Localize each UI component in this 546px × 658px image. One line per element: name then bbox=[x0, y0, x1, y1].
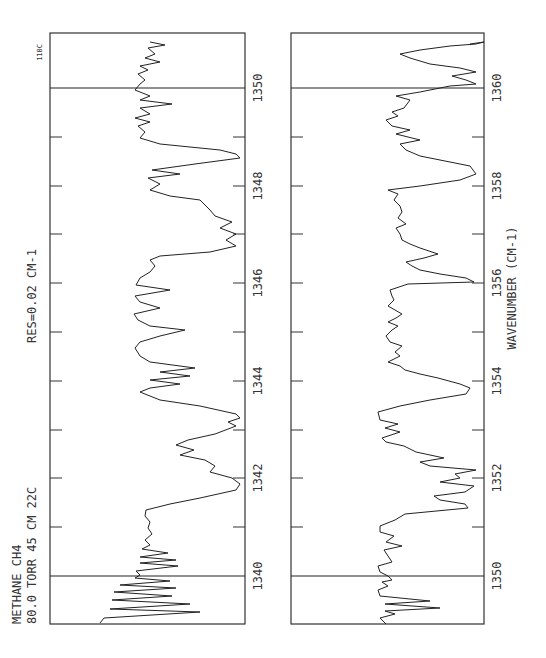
spectrum-figure: 110C METHANE CH4 80.0 TORR 45 CM 22C RES… bbox=[0, 0, 546, 658]
figure-id-label: 110C bbox=[36, 44, 44, 61]
svg-text:1344: 1344 bbox=[251, 367, 265, 396]
lower-panel: 1350 1352 1354 1356 1358 1360 WAVENUMBER… bbox=[291, 33, 519, 624]
upper-spectrum-trace bbox=[100, 42, 240, 623]
header-line2: 80.0 TORR 45 CM 22C bbox=[25, 487, 39, 624]
svg-text:1346: 1346 bbox=[251, 269, 265, 298]
svg-text:1348: 1348 bbox=[251, 172, 265, 201]
lower-spectrum-trace bbox=[378, 42, 484, 624]
svg-text:1354: 1354 bbox=[490, 367, 504, 396]
x-axis-title: WAVENUMBER (CM-1) bbox=[505, 227, 519, 350]
svg-text:1350: 1350 bbox=[490, 562, 504, 591]
svg-text:1360: 1360 bbox=[490, 74, 504, 103]
upper-tick-labels: 1340 1342 1344 1346 1348 1350 bbox=[251, 74, 265, 591]
svg-text:1342: 1342 bbox=[251, 464, 265, 493]
upper-panel: 1340 1342 1344 1346 1348 1350 bbox=[50, 33, 265, 624]
upper-ticks bbox=[50, 137, 245, 527]
header-line1: METHANE CH4 bbox=[10, 545, 24, 624]
svg-text:1356: 1356 bbox=[490, 269, 504, 298]
resolution-label: RES=0.02 CM-1 bbox=[25, 249, 39, 343]
svg-text:1358: 1358 bbox=[490, 172, 504, 201]
lower-tick-labels: 1350 1352 1354 1356 1358 1360 bbox=[490, 74, 504, 591]
svg-text:1350: 1350 bbox=[251, 74, 265, 103]
svg-text:1340: 1340 bbox=[251, 562, 265, 591]
svg-text:1352: 1352 bbox=[490, 464, 504, 493]
